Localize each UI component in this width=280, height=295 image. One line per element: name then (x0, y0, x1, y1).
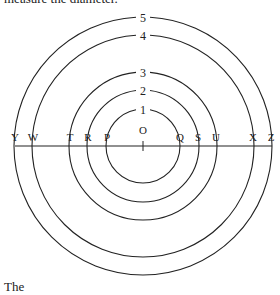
diameter-line (15, 141, 272, 151)
circle-label-2: 2 (140, 84, 146, 98)
point-label-Z: Z (268, 131, 275, 143)
point-label-S: S (195, 131, 201, 143)
point-labels: YWTRPOQSUXZ (11, 124, 275, 143)
point-label-O: O (139, 124, 147, 136)
point-label-X: X (249, 131, 257, 143)
point-label-Y: Y (11, 131, 19, 143)
point-label-Q: Q (176, 131, 184, 143)
point-label-W: W (28, 131, 39, 143)
point-label-P: P (104, 131, 110, 143)
caption-bottom-text: The (4, 279, 24, 295)
point-label-U: U (212, 131, 220, 143)
point-label-T: T (67, 131, 74, 143)
circle-label-3: 3 (140, 66, 146, 80)
circle-label-5: 5 (140, 11, 146, 25)
point-label-R: R (84, 131, 92, 143)
circle-label-1: 1 (140, 103, 146, 117)
circle-label-4: 4 (140, 29, 146, 43)
